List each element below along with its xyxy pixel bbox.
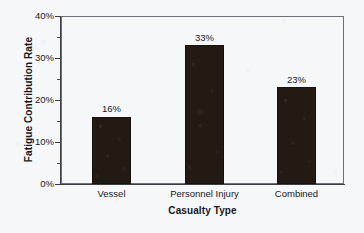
bar-vessel <box>92 117 131 184</box>
x-axis-title: Casualty Type <box>61 205 344 216</box>
bar-value-combined: 23% <box>267 74 326 85</box>
y-tick-label-20: 20% <box>35 95 54 105</box>
y-tick-label-10: 10% <box>35 137 54 147</box>
x-category-label-combined: Combined <box>261 188 332 200</box>
bar-value-vessel: 16% <box>82 103 141 114</box>
y-tick-label-0: 0% <box>40 179 54 189</box>
bar-chart: Fatigue Contribution Rate 40% 30% 20% 10… <box>0 0 364 233</box>
y-axis-line <box>60 16 61 185</box>
x-category-label-vessel: Vessel <box>76 188 147 200</box>
bar-value-personnel-injury: 33% <box>175 32 234 43</box>
bar-combined <box>277 87 316 184</box>
bar-personnel-injury <box>185 45 224 184</box>
x-category-label-personnel-injury: Personnel Injury <box>155 188 254 200</box>
y-tick-label-40: 40% <box>35 11 54 21</box>
y-axis-title: Fatigue Contribution Rate <box>23 10 34 190</box>
y-tick-label-30: 30% <box>35 53 54 63</box>
